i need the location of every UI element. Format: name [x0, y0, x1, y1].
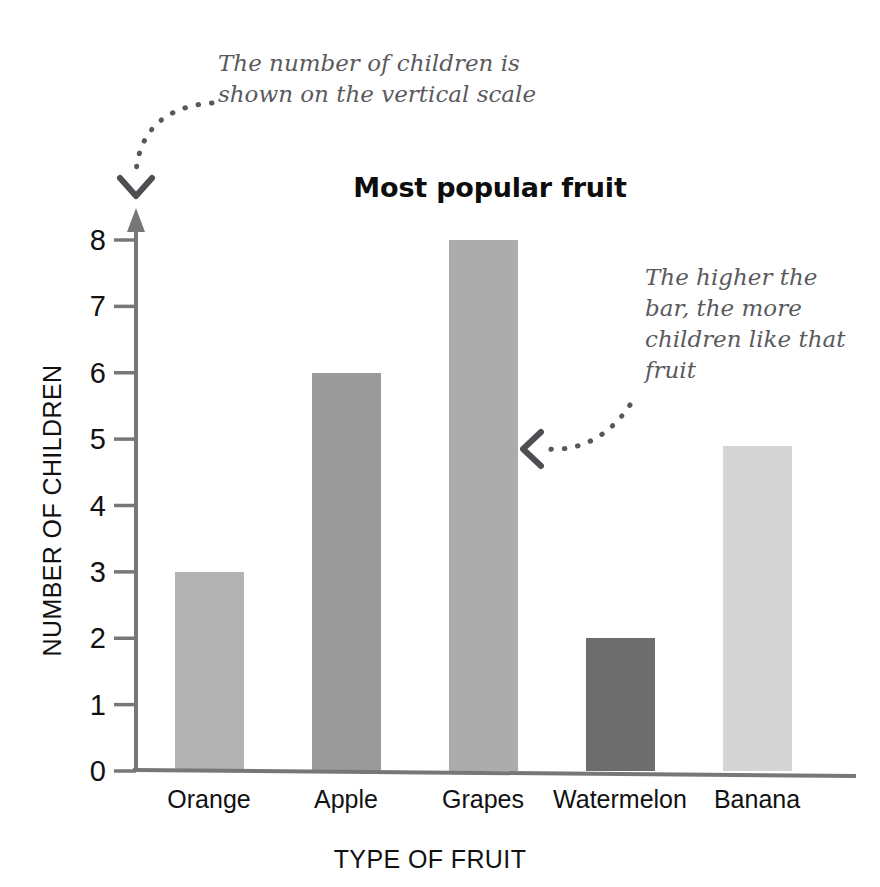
y-tick-label: 4 — [72, 489, 106, 522]
x-tick-label-grapes: Grapes — [442, 785, 524, 814]
dotted-left-arrow-icon — [523, 432, 541, 466]
y-tick-label: 3 — [72, 555, 106, 588]
y-tick-label: 0 — [72, 755, 106, 788]
y-axis-tick-labels: 012345678 — [72, 0, 106, 887]
x-tick-label-banana: Banana — [714, 785, 800, 814]
bar-banana — [723, 446, 792, 771]
y-tick-label: 6 — [72, 356, 106, 389]
y-axis-title: NUMBER OF CHILDREN — [38, 351, 67, 671]
y-tick-label: 2 — [72, 622, 106, 655]
x-tick-label-apple: Apple — [314, 785, 378, 814]
y-axis-ticks — [114, 240, 136, 771]
annotation-vertical-scale: The number of children is shown on the v… — [218, 48, 548, 110]
bar-apple — [312, 373, 381, 771]
bar-orange — [175, 572, 244, 771]
bar-watermelon — [586, 638, 655, 771]
x-axis-title: TYPE OF FRUIT — [265, 845, 595, 874]
dotted-down-arrow-icon — [120, 178, 152, 196]
dotted-left-arrow-tail — [545, 405, 630, 449]
dotted-down-arrow-tail — [136, 103, 212, 172]
bar-grapes — [449, 240, 518, 771]
x-tick-label-orange: Orange — [167, 785, 250, 814]
y-tick-label: 8 — [72, 224, 106, 257]
chart-title: Most popular fruit — [340, 172, 640, 203]
annotation-bar-height: The higher the bar, the more children li… — [645, 262, 860, 386]
y-tick-label: 1 — [72, 688, 106, 721]
y-tick-label: 5 — [72, 423, 106, 456]
x-tick-label-watermelon: Watermelon — [553, 785, 687, 814]
bar-chart: The number of children is shown on the v… — [0, 0, 880, 887]
y-tick-label: 7 — [72, 290, 106, 323]
up-arrowhead-icon — [127, 208, 145, 232]
